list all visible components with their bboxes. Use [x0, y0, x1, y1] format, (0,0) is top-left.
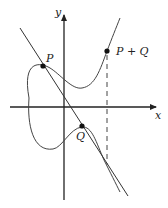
- point-p-plus-q: [104, 48, 109, 53]
- label-p-plus-q: P + Q: [115, 45, 149, 58]
- elliptic-curve-diagram: y x P Q P + Q: [0, 0, 168, 208]
- secant-line: [20, 28, 128, 196]
- point-p: [40, 63, 45, 68]
- elliptic-curve: [27, 18, 120, 98]
- y-axis-label: y: [54, 6, 62, 19]
- x-axis-label: x: [155, 109, 162, 122]
- label-p: P: [45, 52, 54, 65]
- point-q: [79, 123, 84, 128]
- label-q: Q: [76, 130, 85, 143]
